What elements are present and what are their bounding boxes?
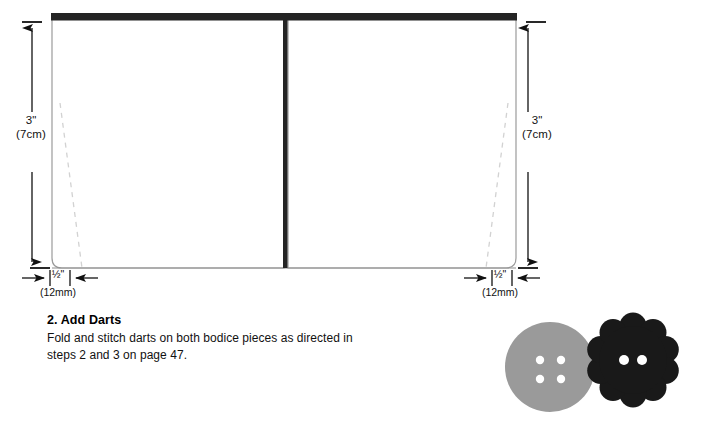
diagram-canvas: 3" (7cm) 3" (7cm) ½" (12mm) ½" (12mm) 2.…	[0, 0, 718, 436]
pattern-piece-right	[288, 18, 516, 268]
button-round-gray	[505, 322, 595, 412]
dimension-right-horizontal-metric: (12mm)	[468, 286, 532, 299]
pattern-center-seam	[283, 16, 288, 268]
dimension-left-vertical-metric: (7cm)	[6, 127, 56, 141]
pattern-diagram-svg	[0, 0, 718, 436]
button-scalloped-black	[587, 313, 679, 408]
dimension-label-left-vertical: 3" (7cm)	[6, 113, 56, 142]
dimension-right-vertical	[518, 22, 546, 268]
dimension-right-horizontal-value: ½"	[478, 268, 522, 281]
dimension-left-horizontal-value: ½"	[36, 268, 80, 281]
instruction-step-heading: 2. Add Darts	[47, 313, 377, 327]
dimension-left-horizontal-metric: (12mm)	[26, 286, 90, 299]
pattern-piece-left	[52, 18, 284, 268]
instruction-block: 2. Add Darts Fold and stitch darts on bo…	[47, 313, 377, 364]
instruction-body-text: Fold and stitch darts on both bodice pie…	[47, 330, 377, 364]
dimension-label-right-vertical: 3" (7cm)	[512, 113, 562, 142]
dimension-right-vertical-value: 3"	[532, 114, 543, 126]
dimension-right-vertical-metric: (7cm)	[512, 127, 562, 141]
dimension-left-vertical-value: 3"	[26, 114, 37, 126]
dimension-left-vertical	[22, 22, 50, 268]
